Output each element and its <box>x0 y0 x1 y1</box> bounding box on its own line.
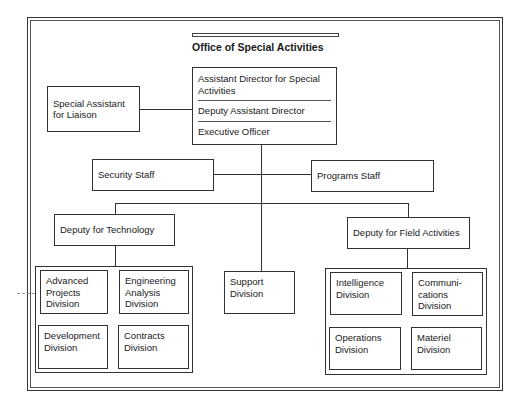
liaison-connector <box>140 109 192 110</box>
operations-division-box: Operations Division <box>329 327 401 370</box>
trunk-line <box>261 145 262 271</box>
engineering-analysis-label: Engineering Analysis Division <box>125 275 176 309</box>
intelligence-division-box: Intelligence Division <box>330 272 402 315</box>
support-division-label: Support Division <box>230 276 263 299</box>
liaison-label: Special Assistant for Liaison <box>53 98 134 121</box>
tech-group-drop <box>115 246 116 266</box>
head-office-box: Assistant Director for Special Activitie… <box>192 67 337 145</box>
security-staff-box: Security Staff <box>92 159 214 191</box>
chart-title: Office of Special Activities <box>192 41 324 53</box>
support-division-box: Support Division <box>224 271 295 314</box>
contracts-division-box: Contracts Division <box>118 325 189 369</box>
development-division-box: Development Division <box>38 325 108 369</box>
advanced-projects-label: Advanced Projects Division <box>46 275 88 309</box>
liaison-box: Special Assistant for Liaison <box>47 86 140 132</box>
assistant-director-role: Assistant Director for Special Activitie… <box>198 68 331 101</box>
tech-branch-drop <box>115 203 116 214</box>
communications-label: Communi- cations Division <box>418 277 462 312</box>
staff-connector <box>214 174 311 175</box>
deputy-technology-label: Deputy for Technology <box>60 224 154 236</box>
field-branch-drop <box>408 203 409 217</box>
materiel-division-box: Materiel Division <box>411 327 482 370</box>
contracts-label: Contracts Division <box>124 330 165 353</box>
deputy-field-box: Deputy for Field Activities <box>347 217 470 249</box>
communications-division-box: Communi- cations Division <box>412 272 483 316</box>
programs-staff-label: Programs Staff <box>317 170 380 182</box>
security-staff-label: Security Staff <box>98 169 154 181</box>
deputy-assistant-director-role: Deputy Assistant Director <box>198 101 331 122</box>
operations-label: Operations Division <box>335 332 381 355</box>
advanced-projects-division-box: Advanced Projects Division <box>40 270 108 314</box>
deputy-branch-line <box>115 203 409 204</box>
title-rule <box>192 33 339 37</box>
field-group-drop <box>407 249 408 268</box>
deputy-technology-box: Deputy for Technology <box>54 214 175 246</box>
stray-mark <box>17 293 35 294</box>
executive-officer-role: Executive Officer <box>198 122 331 142</box>
materiel-label: Materiel Division <box>417 332 451 355</box>
programs-staff-box: Programs Staff <box>311 160 434 192</box>
deputy-field-label: Deputy for Field Activities <box>353 227 460 239</box>
engineering-analysis-division-box: Engineering Analysis Division <box>119 270 189 314</box>
development-label: Development Division <box>44 330 100 353</box>
intelligence-label: Intelligence Division <box>336 277 384 300</box>
